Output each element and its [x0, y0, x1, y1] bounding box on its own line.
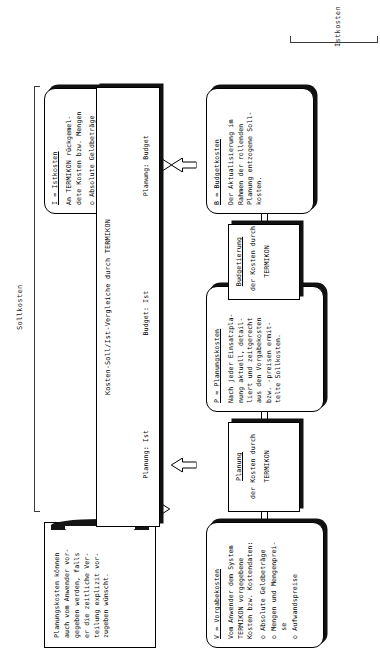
comparison-pair: Planung: Ist [142, 430, 151, 479]
node-line: liert und zeitgerecht [246, 294, 255, 403]
bullet-item: se [280, 530, 289, 639]
node-line: Kosten bzw. Kostendaten: [246, 530, 255, 639]
bullet-item: o Mengen und Mengenprei- [270, 530, 279, 639]
bullet-item: o Absolute Geldbeträge [259, 530, 268, 639]
node-line: Planung entzogene Soll- [246, 96, 255, 205]
process-title: Budgetierung [235, 232, 244, 291]
process-line: TERMIKON [263, 430, 272, 503]
node-line: Nach jeder Einsatzpla- [227, 294, 236, 403]
node-planungskosten[interactable]: P = Planungskosten Nach jeder Einsatzpla… [206, 286, 324, 412]
group-bracket-sollkosten [34, 86, 40, 512]
node-line: An TERMIKON rückgemel- [65, 96, 74, 205]
node-line: TERMIKON vorgegebene [237, 530, 246, 639]
comparison-pair: Budget: Ist [142, 291, 151, 336]
process-line: der Kosten durch [249, 430, 258, 503]
node-bullet-list: o Absolute Geldbeträge o Mengen und Meng… [259, 530, 299, 639]
node-line: bzw. -preisen ermit- [265, 294, 274, 403]
comparison-title: Kosten-Soll/Ist-Vergleiche durch TERMIKO… [104, 88, 114, 526]
group-label-istkosten: Istkosten [334, 6, 346, 47]
node-line: Vom Anwender dem System [227, 530, 236, 639]
process-planung[interactable]: Planung der Kosten durch TERMIKON [228, 422, 300, 512]
node-vorgabekosten[interactable]: V = Vorgabekosten Vom Anwender dem Syste… [206, 522, 324, 648]
node-line: dete Kosten bzw. Mengen [75, 96, 84, 205]
group-bracket-istkosten-tick-left [290, 36, 291, 43]
node-budgetkosten[interactable]: B = Budgetkosten Der Aktualisierung im R… [206, 88, 314, 214]
node-title: P = Planungskosten [213, 294, 222, 403]
comparison-pairs: Planung: Ist Budget: Ist Planung: Budget [142, 88, 151, 526]
process-budgetierung[interactable]: Budgetierung der Kosten durch TERMIKON [228, 224, 300, 300]
node-soll-ist-vergleiche[interactable]: Kosten-Soll/Ist-Vergleiche durch TERMIKO… [96, 87, 160, 527]
note-line: gegeben werden, falls [73, 532, 83, 638]
note-line: er die zeitliche Ver- [83, 532, 93, 638]
node-title: V = Vorgabekosten [213, 530, 222, 639]
group-label-sollkosten: Sollkosten [16, 284, 24, 330]
node-line: nung aktuell, detail- [237, 294, 246, 403]
node-title: B = Budgetkosten [213, 96, 222, 205]
node-title: I = Istkosten [51, 96, 60, 205]
bullet-item: o Aufwandspreise [291, 530, 300, 639]
node-line: Rahmen der rollenden [237, 96, 246, 205]
diagram-canvas: Sollkosten [0, 0, 380, 662]
note-line: teilung explizit vor- [93, 532, 103, 638]
node-line: Der Aktualisierung im [227, 96, 236, 205]
process-line: TERMIKON [263, 232, 272, 291]
node-line: aus den Vorgabekosten [255, 294, 264, 403]
arrow-budgetkosten-to-vergleich [171, 158, 197, 173]
group-bracket-istkosten-tick-right [377, 36, 378, 43]
node-line: kosten. [255, 96, 264, 205]
note-line: Planungskosten können [53, 532, 63, 638]
process-line: der Kosten durch [249, 232, 258, 291]
note-planungskosten: Planungskosten können auch vom Anwender … [44, 522, 156, 648]
node-line: telte Sollkosten. [274, 294, 283, 403]
comparison-pair: Planung: Budget [142, 135, 151, 196]
note-line: zugeben wünscht. [102, 532, 112, 638]
arrow-planungskosten-to-vergleich [171, 458, 197, 473]
process-title: Planung [235, 430, 244, 503]
note-line: auch vom Anwender vor- [63, 532, 73, 638]
